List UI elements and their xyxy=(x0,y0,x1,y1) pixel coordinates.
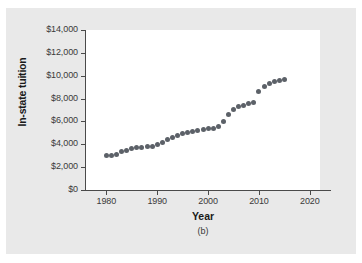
y-tick-mark xyxy=(81,121,85,122)
data-point xyxy=(145,144,150,149)
y-axis-title: In-state tuition xyxy=(16,32,28,152)
data-point xyxy=(262,84,267,89)
x-tick-label: 2020 xyxy=(290,196,330,206)
y-tick-label: $8,000 xyxy=(51,93,78,103)
y-tick-label: $2,000 xyxy=(51,161,78,171)
y-tick-mark xyxy=(81,99,85,100)
plot-area xyxy=(86,30,320,190)
data-point xyxy=(272,79,277,84)
data-point xyxy=(226,112,231,117)
figure-container: $0$2,000$4,000$6,000$8,000$10,000$12,000… xyxy=(0,0,362,263)
x-tick-label: 2000 xyxy=(188,196,228,206)
data-point xyxy=(282,77,287,82)
data-point xyxy=(216,124,221,129)
x-tick-label: 2010 xyxy=(239,196,279,206)
data-point xyxy=(231,107,236,112)
data-point xyxy=(150,144,155,149)
y-axis-spine xyxy=(85,30,86,191)
data-point xyxy=(267,81,272,86)
x-tick-mark xyxy=(157,191,158,195)
y-tick-mark xyxy=(81,30,85,31)
y-tick-label: $14,000 xyxy=(46,24,78,34)
x-tick-mark xyxy=(310,191,311,195)
x-tick-mark xyxy=(259,191,260,195)
y-tick-label: $4,000 xyxy=(51,138,78,148)
x-tick-label: 1980 xyxy=(86,196,126,206)
y-tick-mark xyxy=(81,144,85,145)
subfigure-label: (b) xyxy=(86,226,320,236)
data-point xyxy=(206,126,211,131)
y-tick-mark xyxy=(81,167,85,168)
y-tick-label: $10,000 xyxy=(46,70,78,80)
data-point xyxy=(201,127,206,132)
data-point xyxy=(160,140,165,145)
data-point xyxy=(221,119,226,124)
x-tick-mark xyxy=(106,191,107,195)
y-tick-mark xyxy=(81,190,85,191)
x-tick-mark xyxy=(208,191,209,195)
data-point xyxy=(211,126,216,131)
x-tick-label: 1990 xyxy=(137,196,177,206)
y-tick-label: $0 xyxy=(68,184,78,194)
y-tick-label: $6,000 xyxy=(51,115,78,125)
y-tick-label: $12,000 xyxy=(46,47,78,57)
y-tick-mark xyxy=(81,76,85,77)
x-axis-title: Year xyxy=(86,210,320,222)
y-tick-mark xyxy=(81,53,85,54)
